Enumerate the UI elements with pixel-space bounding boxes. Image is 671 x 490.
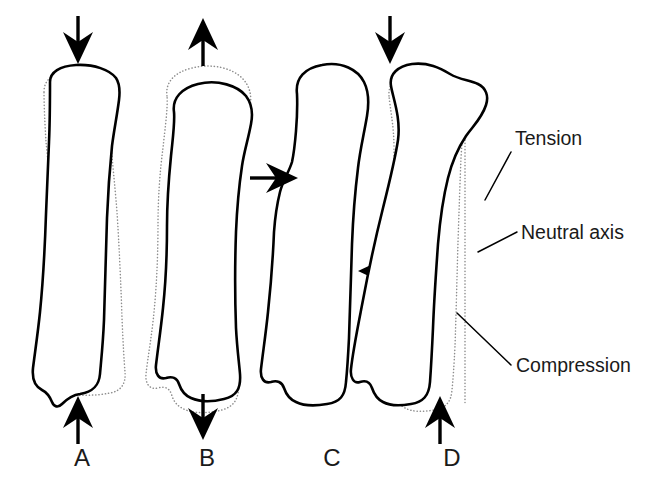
panel-d-bottom-arrow-up <box>425 396 455 444</box>
callout-label-tension: Tension <box>515 127 582 149</box>
panel-d-top-arrow-down <box>375 16 405 64</box>
panel-letter-a: A <box>74 444 90 471</box>
panel-d-bending <box>351 64 487 412</box>
panel-a-top-arrow-down <box>63 16 93 64</box>
panel-b-bone-outline <box>156 82 252 401</box>
panel-letter-b: B <box>199 444 215 471</box>
panel-b-tension <box>146 66 252 413</box>
callout-label-neutral-axis: Neutral axis <box>521 221 624 243</box>
tension-leader-line <box>485 152 511 200</box>
panel-letter-d: D <box>443 444 460 471</box>
panel-a-bottom-arrow-up <box>63 396 93 444</box>
panel-d-bone-outline <box>351 64 487 406</box>
neutral-axis-leader-line <box>478 232 517 252</box>
panel-a-compression <box>33 65 125 407</box>
panel-letter-c: C <box>323 444 340 471</box>
callout-label-compression: Compression <box>516 354 631 376</box>
figure-canvas: Tension Neutral axis Compression A B C D <box>0 0 671 490</box>
panel-a-bone-outline <box>33 65 120 407</box>
panel-b-top-arrow-up <box>188 18 218 66</box>
bone-loading-figure: Tension Neutral axis Compression A B C D <box>0 0 671 490</box>
